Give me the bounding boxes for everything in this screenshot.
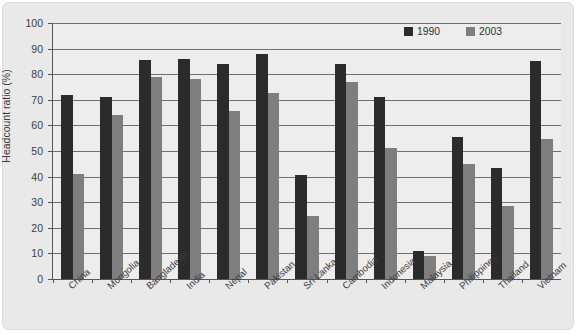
bar-1990: [217, 64, 229, 279]
x-tick-mark: [483, 279, 484, 283]
legend: 19902003: [53, 23, 561, 44]
y-tick-label: 20: [7, 223, 43, 234]
bar-1990: [530, 61, 542, 279]
y-tick-label: 30: [7, 197, 43, 208]
x-tick-mark: [170, 279, 171, 283]
legend-item-1990: 1990: [404, 26, 440, 37]
x-tick-mark: [366, 279, 367, 283]
x-tick-mark: [327, 279, 328, 283]
legend-swatch-icon: [466, 27, 475, 36]
bar-group: [53, 23, 92, 279]
x-tick-mark: [53, 279, 54, 283]
y-tick-label: 40: [7, 172, 43, 183]
bar-group: [483, 23, 522, 279]
bar-group: [248, 23, 287, 279]
legend-swatch-icon: [404, 27, 413, 36]
bar-2003: [112, 115, 124, 279]
legend-label: 1990: [417, 26, 440, 37]
bar-1990: [374, 97, 386, 279]
x-tick-mark: [287, 279, 288, 283]
legend-item-2003: 2003: [466, 26, 502, 37]
bar-1990: [295, 175, 307, 279]
bar-1990: [256, 54, 268, 279]
bar-group: [444, 23, 483, 279]
bar-1990: [335, 64, 347, 279]
y-tick-label: 70: [7, 95, 43, 106]
bar-1990: [452, 137, 464, 279]
bar-group: [287, 23, 326, 279]
bar-group: [522, 23, 561, 279]
bar-2003: [190, 79, 202, 279]
bar-group: [405, 23, 444, 279]
x-tick-mark: [131, 279, 132, 283]
bar-group: [327, 23, 366, 279]
bar-2003: [541, 139, 553, 279]
bar-group: [92, 23, 131, 279]
x-tick-mark: [444, 279, 445, 283]
bar-2003: [151, 77, 163, 279]
bar-2003: [385, 148, 397, 279]
x-tick-mark: [248, 279, 249, 283]
y-tick-label: 100: [7, 18, 43, 29]
y-tick-label: 90: [7, 44, 43, 55]
y-tick-label: 50: [7, 146, 43, 157]
bar-2003: [73, 174, 85, 279]
bar-1990: [139, 60, 151, 279]
bar-2003: [268, 93, 280, 279]
y-tick-label: 10: [7, 248, 43, 259]
y-tick-label: 0: [7, 274, 43, 285]
bar-2003: [346, 82, 358, 279]
x-tick-mark: [209, 279, 210, 283]
bar-group: [170, 23, 209, 279]
bar-2003: [463, 164, 475, 279]
chart-card: Headcount ratio (%) 01020304050607080901…: [2, 2, 574, 330]
legend-label: 2003: [479, 26, 502, 37]
bar-2003: [229, 111, 241, 279]
x-tick-mark: [405, 279, 406, 283]
bar-1990: [61, 95, 73, 279]
x-tick-mark: [92, 279, 93, 283]
y-tick-label: 80: [7, 69, 43, 80]
bar-group: [366, 23, 405, 279]
y-tick-label: 60: [7, 120, 43, 131]
x-tick-mark: [522, 279, 523, 283]
bar-1990: [178, 59, 190, 279]
bar-1990: [100, 97, 112, 279]
bar-group: [131, 23, 170, 279]
bar-group: [209, 23, 248, 279]
plot-area: 0102030405060708090100 ChinaMongoliaBang…: [52, 23, 561, 280]
